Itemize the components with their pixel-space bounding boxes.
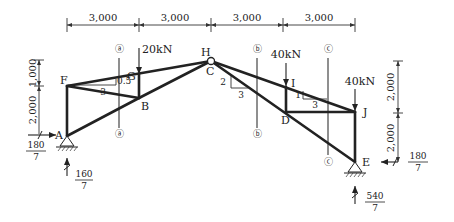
member-CJ bbox=[211, 61, 355, 112]
truss-diagram: 3,000 3,000 3,000 3,000 1,000 2,000 2,00… bbox=[0, 0, 454, 222]
node-label-F: F bbox=[60, 74, 68, 87]
section-c-top-label: ⓒ bbox=[324, 44, 333, 54]
section-b-bottom-label: ⓑ bbox=[253, 129, 262, 139]
load-label-J: 40kN bbox=[345, 75, 376, 88]
reaction-A-vertical-denominator: 7 bbox=[81, 181, 87, 191]
dim-right-1: 2,000 bbox=[385, 73, 396, 102]
node-label-J: J bbox=[362, 106, 367, 119]
reaction-E-vertical-denominator: 7 bbox=[372, 203, 378, 213]
dim-top-1: 3,000 bbox=[89, 12, 118, 23]
node-label-G: G bbox=[127, 70, 136, 83]
reaction-E-horizontal-numerator: 180 bbox=[409, 151, 426, 161]
slope-right-run: 3 bbox=[312, 100, 318, 110]
reaction-A-vertical-numerator: 160 bbox=[75, 169, 92, 179]
section-c-bottom-label: ⓒ bbox=[324, 157, 333, 167]
load-label-I: 40kN bbox=[271, 48, 302, 61]
node-label-H: H bbox=[201, 46, 211, 59]
node-label-E: E bbox=[362, 156, 370, 169]
reaction-E-vertical-numerator: 540 bbox=[366, 191, 383, 201]
reaction-A-horizontal-denominator: 7 bbox=[33, 152, 39, 162]
dim-right-2: 2,000 bbox=[385, 124, 396, 153]
node-label-B: B bbox=[141, 100, 149, 113]
reaction-E-horizontal-denominator: 7 bbox=[415, 163, 421, 173]
node-label-D: D bbox=[281, 114, 290, 127]
dim-top-2: 3,000 bbox=[161, 12, 190, 23]
dim-top-3: 3,000 bbox=[233, 12, 262, 23]
dim-left-2: 2,000 bbox=[27, 96, 38, 125]
section-a-top-label: ⓐ bbox=[115, 44, 124, 54]
section-a-bottom-label: ⓐ bbox=[115, 129, 124, 139]
member-AB bbox=[67, 98, 139, 136]
load-label-G: 20kN bbox=[142, 43, 173, 56]
node-label-C: C bbox=[206, 65, 214, 78]
reaction-A-horizontal-numerator: 180 bbox=[27, 140, 44, 150]
node-label-I: I bbox=[291, 77, 295, 90]
slope-center-run: 3 bbox=[238, 90, 244, 100]
dim-left-1: 1,000 bbox=[27, 59, 38, 88]
dim-top-4: 3,000 bbox=[305, 12, 334, 23]
section-b-top-label: ⓑ bbox=[253, 44, 262, 54]
slope-center-rise: 2 bbox=[220, 77, 226, 87]
